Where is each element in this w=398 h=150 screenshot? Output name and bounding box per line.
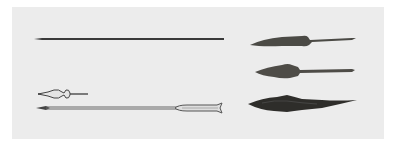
artifact-photo bbox=[12, 7, 384, 139]
long-arrow-shaft bbox=[34, 38, 224, 40]
artifacts-illustration bbox=[12, 7, 384, 139]
